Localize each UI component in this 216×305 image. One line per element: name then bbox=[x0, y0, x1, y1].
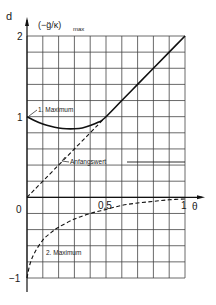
annotation-1-maximum: 1. Maximum bbox=[38, 106, 73, 113]
leader-lines bbox=[29, 110, 185, 162]
y-tick-minus-1: −1 bbox=[9, 273, 21, 284]
y-tick-1: 1 bbox=[17, 112, 23, 123]
y-axis-arrow-icon bbox=[25, 17, 29, 26]
x-tick-0: 0 bbox=[16, 204, 22, 215]
panel-label: d bbox=[6, 10, 12, 22]
annotation-anfangswert: Anfangswert bbox=[70, 158, 106, 166]
annotation-2-maximum: 2. Maximum bbox=[46, 249, 81, 256]
chart: d (−g̈/κ) max 2 1 −1 0 0,5 1 θ 1. Maximu… bbox=[0, 0, 216, 305]
y-axis-label-subscript: max bbox=[73, 26, 84, 32]
y-tick-2: 2 bbox=[17, 31, 23, 42]
x-axis-label: θ bbox=[192, 201, 198, 212]
grid bbox=[27, 36, 185, 278]
x-tick-0-5: 0,5 bbox=[98, 200, 112, 211]
x-tick-1: 1 bbox=[181, 200, 187, 211]
x-axis-arrow-icon bbox=[197, 195, 205, 199]
y-axis-label: (−g̈/κ) bbox=[38, 20, 61, 30]
